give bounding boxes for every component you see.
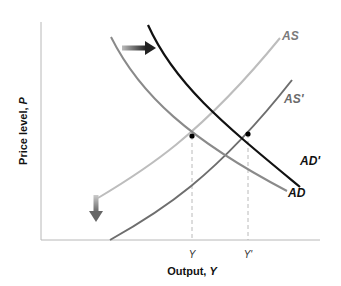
tick-y-prime: Y'	[244, 249, 254, 260]
arrow-down-icon	[89, 195, 103, 222]
y-axis-title: Price level, P	[17, 96, 29, 165]
equilibrium-point-2	[245, 131, 250, 136]
equilibrium-point-1	[189, 133, 194, 138]
ad-as-chart: AS AS' AD' AD Y Y' Output, Y Price level…	[0, 0, 341, 286]
ad-prime-curve	[148, 25, 300, 187]
tick-y: Y	[189, 249, 197, 260]
label-ad-prime: AD'	[299, 154, 321, 168]
label-ad: AD	[287, 186, 306, 200]
label-as-prime: AS'	[283, 92, 305, 106]
x-axis-title: Output, Y	[167, 265, 218, 277]
as-prime-curve	[110, 80, 292, 240]
label-as: AS	[281, 29, 299, 43]
arrow-right-icon	[122, 41, 156, 55]
